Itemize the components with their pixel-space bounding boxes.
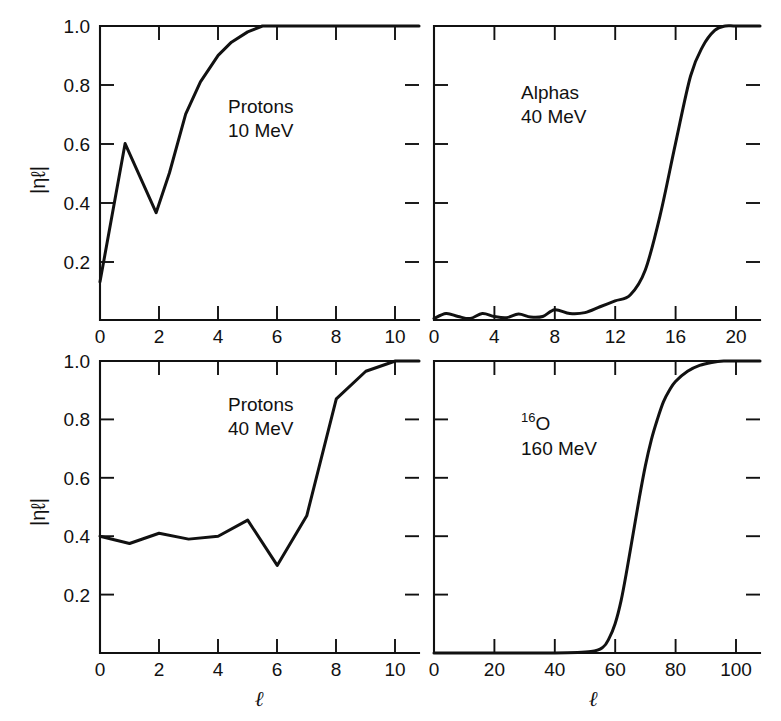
panel-o16-160mev: 0 20 40 60 80 100 ℓ 16O 160 MeV bbox=[429, 361, 760, 711]
panel1-y-axis-title: |ηℓ| bbox=[27, 166, 49, 194]
panel1-annotation-line2: 10 MeV bbox=[228, 120, 294, 141]
panel1-xtick-10: 10 bbox=[384, 326, 405, 347]
panel3-annotation-line2: 40 MeV bbox=[228, 418, 294, 439]
panel2-annotation-line2: 40 MeV bbox=[521, 106, 587, 127]
panel1-ytick-0.6: 0.6 bbox=[64, 134, 90, 155]
panel2-data-curve bbox=[434, 26, 760, 319]
panel1-xtick-2: 2 bbox=[154, 326, 165, 347]
panel4-isotope-superscript: 16 bbox=[521, 410, 535, 425]
panel4-annotation-line2: 160 MeV bbox=[521, 438, 597, 459]
panel1-ytick-0.8: 0.8 bbox=[64, 75, 90, 96]
panel3-y-axis-title-text: |ηℓ| bbox=[27, 498, 49, 526]
panel1-axis-frame bbox=[100, 26, 419, 320]
panel3-annotation-line1: Protons bbox=[228, 394, 293, 415]
panel1-xtick-6: 6 bbox=[272, 326, 283, 347]
panel4-data-curve bbox=[434, 361, 760, 653]
panel1-xtick-0: 0 bbox=[95, 326, 106, 347]
panel4-x-axis-title: ℓ bbox=[589, 687, 598, 711]
panel3-xtick-2: 2 bbox=[154, 659, 165, 680]
panel2-xtick-20: 20 bbox=[725, 326, 746, 347]
panel3-data-curve bbox=[100, 361, 419, 565]
panel1-ticks bbox=[100, 26, 419, 320]
panel2-xtick-12: 12 bbox=[605, 326, 626, 347]
panel4-ticks bbox=[434, 361, 760, 653]
panel2-ticks bbox=[434, 26, 760, 320]
panel4-axis-frame bbox=[434, 361, 760, 653]
panel3-xtick-4: 4 bbox=[213, 659, 224, 680]
panel1-ytick-1.0: 1.0 bbox=[64, 16, 90, 37]
panel3-ytick-0.2: 0.2 bbox=[64, 585, 90, 606]
panel2-xtick-8: 8 bbox=[550, 326, 561, 347]
panel1-annotation-line1: Protons bbox=[228, 96, 293, 117]
multi-panel-chart: 1.0 0.8 0.6 0.4 0.2 0 2 4 6 8 10 |ηℓ| Pr… bbox=[0, 0, 781, 721]
panel3-x-axis-title: ℓ bbox=[255, 687, 264, 711]
panel3-ytick-0.8: 0.8 bbox=[64, 409, 90, 430]
panel1-ytick-0.4: 0.4 bbox=[64, 193, 91, 214]
panel1-data-curve bbox=[100, 26, 419, 282]
panel3-ytick-0.4: 0.4 bbox=[64, 526, 91, 547]
panel4-xtick-60: 60 bbox=[605, 659, 626, 680]
panel-protons-10mev: 1.0 0.8 0.6 0.4 0.2 0 2 4 6 8 10 |ηℓ| Pr… bbox=[27, 16, 419, 347]
panel2-axis-frame bbox=[434, 26, 760, 320]
panel2-xtick-0: 0 bbox=[429, 326, 440, 347]
panel2-xtick-16: 16 bbox=[665, 326, 686, 347]
panel4-xtick-80: 80 bbox=[665, 659, 686, 680]
panel3-y-axis-title: |ηℓ| bbox=[27, 498, 49, 526]
panel-protons-40mev: 1.0 0.8 0.6 0.4 0.2 0 2 4 6 8 10 |ηℓ| ℓ … bbox=[27, 351, 419, 711]
panel3-ytick-0.6: 0.6 bbox=[64, 468, 90, 489]
panel4-xtick-100: 100 bbox=[720, 659, 752, 680]
panel-alphas-40mev: 0 4 8 12 16 20 Alphas 40 MeV bbox=[429, 26, 760, 347]
panel4-xtick-20: 20 bbox=[484, 659, 505, 680]
panel4-isotope-element: O bbox=[535, 413, 550, 434]
panel1-ytick-0.2: 0.2 bbox=[64, 252, 90, 273]
panel4-xtick-0: 0 bbox=[429, 659, 440, 680]
panel1-y-axis-title-text: |ηℓ| bbox=[27, 166, 49, 194]
panel3-ytick-1.0: 1.0 bbox=[64, 351, 90, 372]
figure-container: 1.0 0.8 0.6 0.4 0.2 0 2 4 6 8 10 |ηℓ| Pr… bbox=[0, 0, 781, 721]
panel3-xtick-6: 6 bbox=[272, 659, 283, 680]
panel1-xtick-4: 4 bbox=[213, 326, 224, 347]
panel2-xtick-4: 4 bbox=[489, 326, 500, 347]
panel1-xtick-8: 8 bbox=[331, 326, 342, 347]
panel4-xtick-40: 40 bbox=[544, 659, 565, 680]
panel4-annotation-isotope: 16O bbox=[521, 410, 550, 434]
panel3-xtick-8: 8 bbox=[331, 659, 342, 680]
panel3-xtick-0: 0 bbox=[95, 659, 106, 680]
panel3-xtick-10: 10 bbox=[384, 659, 405, 680]
panel2-annotation-line1: Alphas bbox=[521, 82, 579, 103]
